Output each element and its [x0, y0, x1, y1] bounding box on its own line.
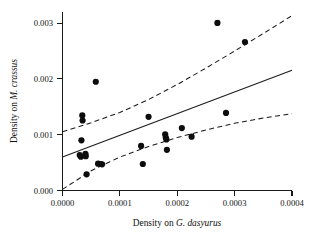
plot-canvas: 0.0000.0010.0020.003 0.00000.00010.00020…	[0, 0, 320, 236]
x-axis-tick-marks	[63, 191, 293, 197]
scatter-plot-figure: 0.0000.0010.0020.003 0.00000.00010.00020…	[0, 0, 320, 236]
confidence-band	[63, 114, 293, 190]
data-point	[79, 117, 85, 123]
data-point	[93, 79, 99, 85]
data-point	[78, 137, 84, 143]
y-tick-label: 0.003	[34, 18, 53, 28]
data-point	[140, 161, 146, 167]
data-point	[188, 134, 194, 140]
data-point	[99, 161, 105, 167]
y-axis-title: Density on M. crassus	[9, 59, 19, 143]
data-point	[214, 20, 220, 26]
x-axis-tick-labels: 0.00000.00010.00020.00030.0004	[51, 198, 305, 208]
confidence-band	[63, 16, 293, 132]
data-point	[163, 136, 169, 142]
data-point	[145, 114, 151, 120]
x-tick-label: 0.0003	[223, 198, 247, 208]
x-tick-label: 0.0002	[165, 198, 189, 208]
y-axis-tick-labels: 0.0000.0010.0020.003	[34, 18, 53, 195]
x-tick-label: 0.0004	[280, 198, 304, 208]
x-tick-label: 0.0001	[108, 198, 132, 208]
y-tick-label: 0.000	[34, 186, 53, 196]
data-point	[83, 153, 89, 159]
data-point	[164, 147, 170, 153]
data-point	[84, 171, 90, 177]
data-point	[223, 110, 229, 116]
data-points-group	[77, 20, 248, 178]
y-axis-tick-marks	[57, 23, 63, 190]
x-tick-label: 0.0000	[51, 198, 75, 208]
data-point	[179, 125, 185, 131]
data-point	[138, 143, 144, 149]
data-point	[242, 39, 248, 45]
y-tick-label: 0.001	[34, 130, 53, 140]
y-tick-label: 0.002	[34, 74, 53, 84]
x-axis-title: Density on G. dasyurus	[133, 218, 222, 228]
